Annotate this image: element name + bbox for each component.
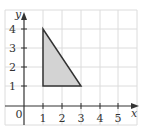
x-axis-label: x	[131, 107, 138, 120]
y-axis-label: y	[14, 8, 22, 21]
y-tick-label: 4	[9, 23, 16, 36]
origin-label: 0	[16, 108, 23, 121]
x-tick-label: 1	[40, 112, 47, 125]
y-tick-label: 3	[9, 42, 16, 55]
coordinate-plane: 1 2 3 4 5 1 2 3 4 0 x y	[0, 0, 150, 130]
y-axis-arrow-icon	[21, 12, 27, 20]
x-tick-label: 2	[59, 112, 66, 125]
y-tick-label: 1	[9, 80, 16, 93]
x-tick-label: 4	[97, 112, 104, 125]
x-tick-label: 5	[115, 112, 122, 125]
x-tick-label: 3	[78, 112, 85, 125]
y-tick-label: 2	[9, 61, 16, 74]
